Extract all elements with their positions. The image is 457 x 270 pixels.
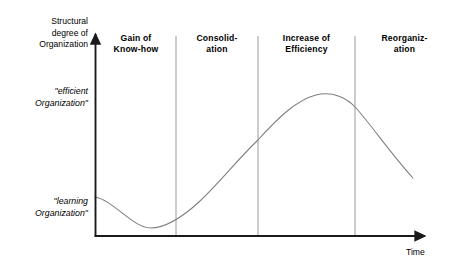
y-axis-title: Structural degree of Organization	[2, 16, 88, 51]
phase-divider-group	[176, 36, 355, 235]
level-label-learning-organization: "learning Organization"	[2, 196, 88, 220]
phase-header-increase-of-efficiency: Increase of Efficiency	[260, 33, 353, 56]
x-axis-title: Time	[406, 247, 425, 257]
diagram-canvas: Structural degree of Organization "effic…	[0, 0, 457, 270]
phase-header-gain-of-know-how: Gain of Know-how	[98, 33, 174, 56]
phase-header-consolidation: Consolid- ation	[178, 33, 256, 56]
level-label-efficient-organization: "efficient Organization"	[2, 86, 88, 110]
s-curve-line	[95, 94, 413, 228]
phase-header-reorganization: Reorganiz- ation	[357, 33, 452, 56]
